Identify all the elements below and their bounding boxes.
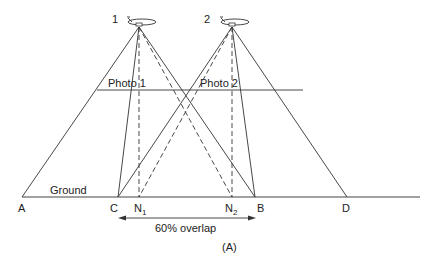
aircraft-1-cone [22, 27, 255, 197]
point-c-label: C [110, 202, 118, 214]
point-d-label: D [342, 202, 350, 214]
aerial-photo-overlap-diagram: 1 2 Photo 1 Photo 2 Ground A C N1 N2 B D… [0, 0, 439, 261]
point-n2-label: N2 [225, 202, 238, 217]
aircraft-2-label: 2 [204, 13, 210, 25]
photo-2-label: Photo 2 [200, 77, 238, 89]
overlap-label: 60% overlap [155, 222, 216, 234]
point-b-label: B [257, 202, 264, 214]
point-a-label: A [18, 202, 26, 214]
photo-1-label: Photo 1 [108, 77, 146, 89]
point-n1-label: N1 [134, 202, 147, 217]
figure-label: (A) [222, 241, 237, 253]
aircraft-2-cone [118, 27, 347, 197]
ground-label: Ground [50, 184, 87, 196]
airplane-icon [127, 17, 156, 26]
aircraft-1-label: 1 [112, 13, 118, 25]
airplane-icon [220, 17, 249, 26]
